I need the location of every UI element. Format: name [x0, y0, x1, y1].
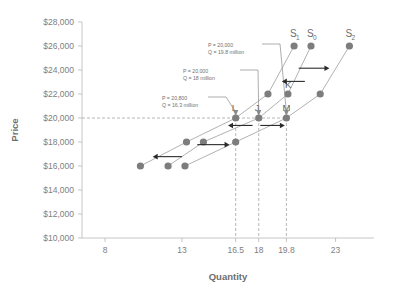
anno-top-line1: P = 20,000 [208, 42, 233, 48]
y-tick-label: $24,000 [43, 65, 74, 75]
chart-canvas: $10,000$12,000$14,000$16,000$18,000$20,0… [0, 0, 398, 288]
x-axis-title: Quantity [209, 271, 248, 282]
anno-bottom-line2: Q = 16.3 million [162, 102, 198, 108]
data-point [183, 138, 190, 145]
y-tick-label: $26,000 [43, 41, 74, 51]
x-tick-label: 18 [254, 245, 264, 255]
curve-label-subscript-S1: 1 [296, 34, 300, 41]
y-tick-label: $12,000 [43, 209, 74, 219]
y-axis-title: Price [9, 118, 20, 141]
shift-arrow-right-24000-head [324, 65, 329, 71]
data-point [307, 42, 314, 49]
shift-arrow-right-18000-head [225, 142, 230, 148]
anno-bottom-line1: P = 20,800 [162, 95, 187, 101]
data-point [284, 90, 291, 97]
anno-mid-line2: Q = 18 million [183, 75, 215, 81]
y-tick-label: $14,000 [43, 185, 74, 195]
data-point [264, 90, 271, 97]
supply-curve-S2 [185, 46, 349, 166]
data-point [232, 138, 239, 145]
x-tick-label: 13 [177, 245, 187, 255]
data-point [164, 162, 171, 169]
anno-mid-line1: P = 20,000 [183, 68, 208, 74]
curve-label-subscript-S0: 0 [313, 34, 317, 41]
data-point [346, 42, 353, 49]
x-tick-label: 19.8 [278, 245, 295, 255]
data-point [317, 90, 324, 97]
x-tick-label: 16.5 [227, 245, 244, 255]
y-tick-label: $18,000 [43, 137, 74, 147]
curve-label-subscript-S2: 2 [351, 34, 355, 41]
y-tick-label: $16,000 [43, 161, 74, 171]
y-tick-label: $10,000 [43, 233, 74, 243]
x-tick-label: 23 [331, 245, 341, 255]
x-tick-label: 8 [103, 245, 108, 255]
y-tick-label: $22,000 [43, 89, 74, 99]
anno-top-line2: Q = 19.8 million [208, 49, 244, 55]
y-tick-label: $20,000 [43, 113, 74, 123]
shift-arrow-right-20000-head [280, 123, 285, 129]
data-point [290, 42, 297, 49]
y-tick-label: $28,000 [43, 17, 74, 27]
data-point [181, 162, 188, 169]
data-point [137, 162, 144, 169]
supply-shift-chart: $10,000$12,000$14,000$16,000$18,000$20,0… [0, 0, 398, 288]
shift-arrow-left-20000-head [228, 123, 233, 129]
